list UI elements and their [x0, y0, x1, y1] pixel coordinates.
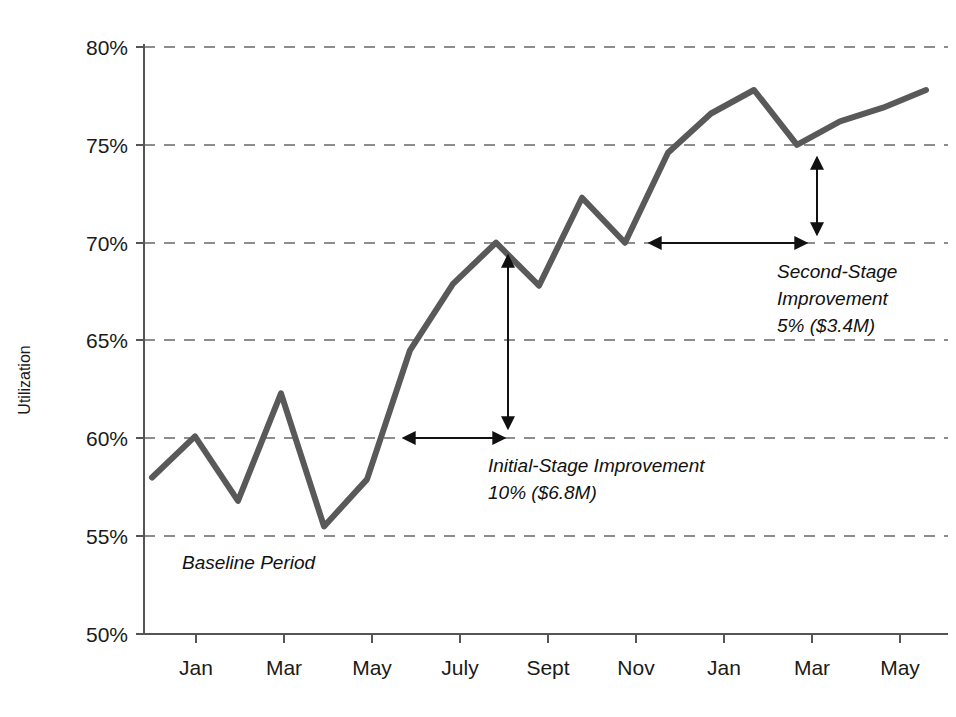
y-axis-tick-labels: 80% 75% 70% 65% 60% 55% 50%	[86, 36, 128, 646]
x-axis-ticks	[196, 634, 900, 643]
annotation-second-stage: Second-Stage Improvement 5% ($3.4M)	[777, 261, 897, 336]
annotation-initial-stage-line1: Initial-Stage Improvement	[488, 455, 705, 476]
annotation-initial-stage-line2: 10% ($6.8M)	[488, 482, 597, 503]
chart-canvas: 80% 75% 70% 65% 60% 55% 50% Jan Mar May …	[0, 0, 956, 717]
x-axis-tick-labels: Jan Mar May July Sept Nov Jan Mar May	[179, 656, 920, 679]
y-tick-label-60: 60%	[86, 427, 128, 450]
annotation-second-stage-line1: Second-Stage	[777, 261, 897, 282]
y-tick-label-55: 55%	[86, 525, 128, 548]
utilization-line-chart: 80% 75% 70% 65% 60% 55% 50% Jan Mar May …	[0, 0, 956, 717]
annotation-second-stage-line3: 5% ($3.4M)	[777, 315, 875, 336]
y-axis-ticks	[136, 47, 144, 634]
x-tick-label-may-2: May	[880, 656, 920, 679]
x-tick-label-mar-1: Mar	[266, 656, 302, 679]
y-tick-label-50: 50%	[86, 623, 128, 646]
annotation-baseline-period: Baseline Period	[182, 552, 317, 573]
y-tick-label-80: 80%	[86, 36, 128, 59]
x-tick-label-july: July	[441, 656, 479, 679]
y-tick-label-65: 65%	[86, 329, 128, 352]
annotation-second-stage-line2: Improvement	[777, 288, 889, 309]
x-tick-label-mar-2: Mar	[794, 656, 830, 679]
x-tick-label-may-1: May	[352, 656, 392, 679]
x-tick-label-jan-1: Jan	[179, 656, 213, 679]
annotation-initial-stage: Initial-Stage Improvement 10% ($6.8M)	[488, 455, 705, 503]
x-tick-label-sept: Sept	[526, 656, 569, 679]
x-tick-label-nov: Nov	[617, 656, 655, 679]
x-tick-label-jan-2: Jan	[707, 656, 741, 679]
y-tick-label-75: 75%	[86, 134, 128, 157]
y-tick-label-70: 70%	[86, 232, 128, 255]
y-axis-title: Utilization	[16, 345, 33, 414]
